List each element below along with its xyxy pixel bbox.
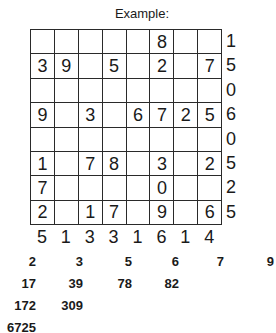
puzzle-title-text: Example: (115, 6, 169, 21)
puzzle-grid: 839527936725178327021796 (30, 29, 222, 225)
row-sum: 5 (226, 151, 236, 175)
grid-cell[interactable]: 7 (31, 176, 55, 200)
grid-cell[interactable]: 9 (54, 54, 78, 78)
grid-cell[interactable]: 2 (31, 200, 55, 224)
grid-cell[interactable] (31, 127, 55, 151)
number-list-item: 6725 (0, 318, 36, 333)
grid-cell[interactable] (174, 200, 198, 224)
grid-row: 17832 (31, 151, 222, 175)
row-sum: 5 (226, 200, 236, 224)
number-list-item: 309 (43, 296, 83, 316)
grid-row: 21796 (31, 200, 222, 224)
grid-cell[interactable] (102, 78, 126, 102)
grid-cell[interactable]: 0 (150, 176, 174, 200)
grid-cell[interactable] (126, 78, 150, 102)
column-sum: 1 (126, 226, 150, 248)
row-sum: 5 (226, 53, 236, 77)
grid-cell[interactable]: 1 (31, 151, 55, 175)
grid-cell[interactable] (198, 127, 222, 151)
grid-cell[interactable]: 2 (174, 103, 198, 127)
grid-cell[interactable] (126, 54, 150, 78)
row-sum: 0 (226, 78, 236, 102)
grid-cell[interactable] (150, 127, 174, 151)
grid-cell[interactable]: 7 (198, 54, 222, 78)
grid-cell[interactable] (174, 127, 198, 151)
grid-cell[interactable] (102, 103, 126, 127)
grid-cell[interactable] (102, 127, 126, 151)
grid-cell[interactable] (54, 200, 78, 224)
grid-cell[interactable] (78, 54, 102, 78)
grid-cell[interactable]: 9 (31, 103, 55, 127)
grid-cell[interactable] (174, 176, 198, 200)
grid-cell[interactable]: 3 (150, 151, 174, 175)
grid-cell[interactable] (174, 151, 198, 175)
grid-cell[interactable]: 7 (78, 151, 102, 175)
grid-cell[interactable] (174, 54, 198, 78)
grid-cell[interactable] (102, 30, 126, 54)
grid-cell[interactable] (54, 30, 78, 54)
column-sum: 3 (102, 226, 126, 248)
grid-cell[interactable] (102, 176, 126, 200)
number-list-item: 3 (43, 252, 83, 272)
grid-cell[interactable] (54, 176, 78, 200)
grid-cell[interactable] (78, 30, 102, 54)
grid-cell[interactable] (126, 176, 150, 200)
grid-cell[interactable]: 8 (102, 151, 126, 175)
number-list-row: 235679 (0, 252, 276, 274)
grid-cell[interactable] (126, 151, 150, 175)
number-list: 235679173978821723096725 (0, 252, 276, 333)
grid-cell[interactable]: 7 (150, 103, 174, 127)
row-sum: 6 (226, 102, 236, 126)
grid-row: 936725 (31, 103, 222, 127)
grid-cell[interactable] (198, 30, 222, 54)
grid-cell[interactable] (174, 30, 198, 54)
grid-cell[interactable]: 9 (150, 200, 174, 224)
grid-cell[interactable] (78, 78, 102, 102)
grid-cell[interactable]: 6 (126, 103, 150, 127)
grid-row: 39527 (31, 54, 222, 78)
number-list-row: 172309 (0, 296, 276, 318)
grid-cell[interactable] (174, 78, 198, 102)
grid-cell[interactable] (31, 78, 55, 102)
puzzle-title: Example: (0, 6, 276, 21)
column-sum: 1 (54, 226, 78, 248)
grid-row: 70 (31, 176, 222, 200)
grid-cell[interactable] (54, 151, 78, 175)
grid-cell[interactable] (54, 103, 78, 127)
number-list-item: 2 (0, 252, 36, 272)
row-sum: 1 (226, 29, 236, 53)
grid-cell[interactable]: 5 (102, 54, 126, 78)
grid-cell[interactable] (126, 200, 150, 224)
grid-cell[interactable] (78, 127, 102, 151)
grid-cell[interactable] (150, 78, 174, 102)
grid-row: 8 (31, 30, 222, 54)
number-list-item: 6 (139, 252, 179, 272)
grid-cell[interactable] (126, 127, 150, 151)
grid-cell[interactable]: 7 (102, 200, 126, 224)
grid-cell[interactable]: 1 (78, 200, 102, 224)
grid-cell[interactable]: 5 (198, 103, 222, 127)
grid-row (31, 127, 222, 151)
column-sum: 5 (30, 226, 54, 248)
grid-cell[interactable]: 3 (31, 54, 55, 78)
grid-cell[interactable]: 6 (198, 200, 222, 224)
grid-cell[interactable] (54, 78, 78, 102)
grid-cell[interactable] (198, 176, 222, 200)
grid-cell[interactable] (31, 30, 55, 54)
number-list-item: 9 (234, 252, 274, 272)
number-list-item: 7 (184, 252, 224, 272)
column-sum: 4 (197, 226, 221, 248)
number-list-item: 39 (43, 274, 83, 294)
grid-cell[interactable]: 8 (150, 30, 174, 54)
grid-cell[interactable]: 2 (150, 54, 174, 78)
number-list-item: 82 (139, 274, 179, 294)
number-list-item: 5 (92, 252, 132, 272)
grid-cell[interactable] (78, 176, 102, 200)
number-list-row: 6725 (0, 318, 276, 333)
grid-cell[interactable] (126, 30, 150, 54)
grid-cell[interactable] (198, 78, 222, 102)
grid-cell[interactable]: 2 (198, 151, 222, 175)
grid-cell[interactable]: 3 (78, 103, 102, 127)
grid-cell[interactable] (54, 127, 78, 151)
column-sum: 1 (173, 226, 197, 248)
